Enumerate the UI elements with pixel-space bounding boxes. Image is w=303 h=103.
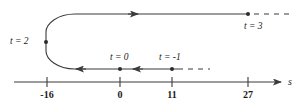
point-label-tminus1: t = -1: [159, 53, 181, 63]
u-turn-curve: [46, 14, 75, 69]
point-dot-tminus1: [170, 67, 174, 71]
axis-tick-label-11: 11: [162, 90, 182, 100]
axis-variable-label: s: [288, 77, 292, 87]
axis-tick-label-minus16: -16: [34, 90, 60, 100]
figure-canvas: [0, 0, 303, 103]
point-dot-t0: [118, 67, 122, 71]
point-dot-t3: [246, 12, 250, 16]
motion-diagram-figure: t = 3 t = 2 t = 0 t = -1 -16 0 11 27 s: [0, 0, 303, 103]
dashed-continuations: [178, 14, 292, 69]
point-dot-t2: [44, 40, 48, 44]
point-label-t2: t = 2: [10, 37, 29, 47]
s-axis: [14, 77, 281, 87]
event-dots: [44, 12, 250, 71]
point-label-t3: t = 3: [244, 22, 263, 32]
axis-tick-label-0: 0: [110, 90, 130, 100]
axis-tick-label-27: 27: [238, 90, 258, 100]
point-label-t0: t = 0: [110, 53, 129, 63]
